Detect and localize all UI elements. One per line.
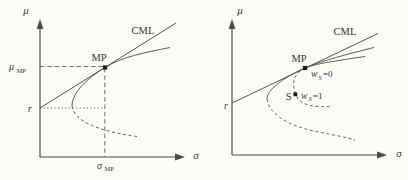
left-y-axis-label: μ [22, 4, 29, 16]
figure-canvas: μ σ CML MP μ MP r σ MP μ σ CML MP r [0, 0, 408, 180]
right-mp-label: MP [291, 53, 306, 64]
left-x-axis-arrow-icon [175, 154, 185, 161]
right-s-point [293, 92, 297, 96]
left-mu-mp-label-sub: MP [17, 67, 27, 74]
right-weight-zero-rest: =0 [323, 69, 333, 79]
right-weight-one-label: w S =1 [301, 91, 323, 103]
cml-frontier-figure: μ σ CML MP μ MP r σ MP μ σ CML MP r [0, 0, 408, 180]
right-weight-zero-label: w S =0 [311, 69, 333, 81]
left-mp-label: MP [91, 52, 106, 63]
left-plot: μ σ CML MP μ MP r σ MP [8, 4, 199, 172]
right-weight-one-rest: =1 [313, 91, 323, 101]
left-frontier-upper-curve [72, 48, 170, 107]
right-y-axis-arrow-icon [229, 19, 236, 29]
left-mp-point [103, 65, 107, 69]
left-riskfree-label: r [28, 103, 32, 114]
right-mp-point [303, 66, 307, 70]
right-weight-one-sub: S [309, 95, 313, 102]
left-sigma-mp-label-sub: MP [105, 165, 115, 172]
right-weight-one-base: w [301, 91, 308, 101]
right-cml-label: CML [334, 26, 357, 37]
left-x-axis-label: σ [193, 149, 199, 161]
right-riskfree-label: r [224, 100, 228, 111]
left-y-axis-arrow-icon [37, 19, 44, 29]
left-mu-mp-label-base: μ [8, 61, 14, 72]
right-weight-zero-base: w [311, 69, 318, 79]
right-s-label: S [286, 91, 292, 102]
right-x-axis-arrow-icon [377, 152, 387, 159]
right-weight-zero-sub: S [319, 74, 323, 81]
left-sigma-mp-label-base: σ [97, 160, 103, 171]
right-y-axis-label: μ [236, 4, 243, 16]
right-x-axis-label: σ [396, 147, 402, 159]
right-frontier-lower-curve [267, 99, 355, 140]
right-plot: μ σ CML MP r S w S =0 w S =1 [224, 4, 402, 159]
left-cml-label: CML [132, 25, 155, 36]
